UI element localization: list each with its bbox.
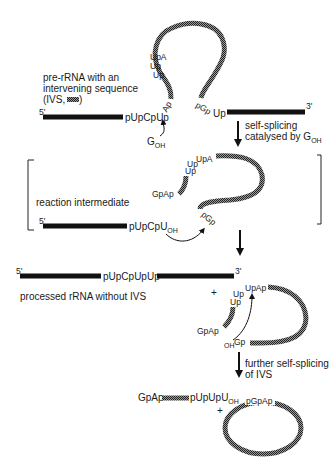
left-exon-sequence: pUpCpUp	[125, 112, 169, 123]
stage2-top-upa: UpA	[196, 154, 213, 164]
stage2-ivs-stem	[179, 176, 186, 194]
guanosine-nucleophile: GOH	[147, 136, 165, 149]
stage-reaction-intermediate: reaction intermediate Up UpA Up GpAp 5' …	[28, 154, 321, 241]
stage3-ivs-loop	[250, 287, 306, 343]
stage4-fragment-left: GpAp	[138, 392, 164, 403]
step2-text-line1: further self-splicing	[245, 358, 329, 369]
diagram-canvas: pre-rRNA with an intervening sequence (I…	[0, 0, 335, 468]
right-junction-pgp: pGp	[194, 100, 213, 117]
stage4-plus: +	[217, 405, 223, 416]
stage1-label-line3: (IVS,	[43, 94, 65, 105]
three-prime-label: 3'	[306, 101, 313, 111]
circular-ivs	[225, 402, 301, 454]
stage2-right-pgp: pGp	[199, 209, 218, 227]
stage2-left-seq: pUpCpUOH	[129, 221, 178, 234]
stage2-cap-gpap: GpAp	[152, 189, 174, 199]
stage3-stem-up: Up	[230, 297, 241, 307]
stage3-top-upap: UpAp	[245, 283, 267, 293]
step2-arrow-group: further self-splicing of IVS	[239, 352, 329, 380]
stage1-label-close: )	[79, 94, 82, 105]
stage3-oh-prefix: OH	[224, 342, 235, 349]
step2-text-line2: of IVS	[245, 369, 273, 380]
stage3-three-prime: 3'	[235, 266, 242, 276]
stage3-ivs-stem	[224, 307, 233, 327]
stage2-stem-up: Up	[185, 166, 196, 176]
stage3-plus: +	[211, 287, 217, 298]
step1-arrow-group: self-splicing catalysed by GOH	[238, 120, 322, 144]
right-exon-up: Up	[213, 108, 226, 119]
stage1-label-line1: pre-rRNA with an	[43, 72, 119, 83]
stage3-label: processed rRNA without IVS	[20, 291, 146, 302]
circle-label: pGpAp	[246, 396, 273, 406]
stage3-joined-seq: pUpCpUpUp	[103, 271, 160, 282]
step1-text-line1: self-splicing	[245, 120, 297, 131]
stage4-fragment-right: pUpUpUOH	[190, 392, 239, 405]
stage-processed-rrna: 5' pUpCpUpUp 3' processed rRNA without I…	[16, 266, 306, 349]
attack-arrow-1	[160, 122, 164, 136]
right-bracket	[317, 155, 321, 224]
stage1-label-line2: intervening sequence	[43, 83, 139, 94]
stem-label-up2: Up	[153, 70, 164, 80]
left-bracket	[28, 160, 34, 230]
splicing-diagram: pre-rRNA with an intervening sequence (I…	[0, 0, 335, 468]
stage-final-products: GpAp pUpUpUOH + pGpAp	[138, 392, 301, 454]
stage3-cap-gpap: GpAp	[197, 326, 219, 336]
step1-text-line2: catalysed by GOH	[245, 131, 322, 144]
stage2-label: reaction intermediate	[36, 197, 130, 208]
